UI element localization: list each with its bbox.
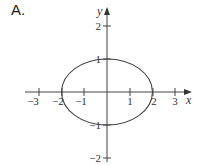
x-tick-label: −2 <box>52 95 64 107</box>
y-tick-label: −1 <box>89 119 101 131</box>
x-tick-label: −1 <box>75 95 87 107</box>
x-axis-label: x <box>185 93 192 107</box>
x-tick-label: 1 <box>127 95 133 107</box>
y-tick-label: −2 <box>89 152 101 164</box>
x-tick-label: 3 <box>172 95 178 107</box>
y-axis-label: y <box>96 4 103 18</box>
y-tick-label: 1 <box>96 53 102 65</box>
y-tick-label: 2 <box>96 20 102 32</box>
x-tick-label: −3 <box>27 95 39 107</box>
y-axis-arrow-icon <box>104 7 110 15</box>
x-tick-label: 2 <box>151 95 157 107</box>
chart-plot: −3 −2 −1 1 2 3 2 1 −1 −2 x y <box>0 0 205 165</box>
